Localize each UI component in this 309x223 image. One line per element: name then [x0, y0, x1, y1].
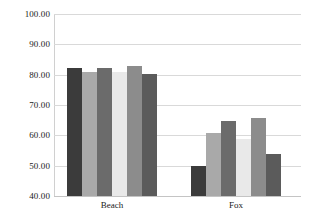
bar [191, 166, 206, 196]
x-axis-category-label: Fox [196, 200, 276, 210]
bar [266, 154, 281, 196]
bar [251, 118, 266, 196]
gridline [54, 196, 301, 197]
x-axis-category-label: Beach [72, 200, 152, 210]
bar-group [67, 14, 157, 196]
bar [142, 74, 157, 196]
y-tick-label: 70.00 [2, 101, 50, 110]
bar [97, 68, 112, 196]
bar [82, 72, 97, 196]
y-tick-label: 50.00 [2, 162, 50, 171]
bar-chart: 100.0090.0080.0070.0060.0050.0040.00 Bea… [0, 0, 309, 223]
bar [206, 133, 221, 196]
y-tick-label: 100.00 [2, 10, 50, 19]
bar [127, 66, 142, 196]
y-tick-label: 80.00 [2, 71, 50, 80]
bar [67, 68, 82, 196]
bar [112, 72, 127, 196]
bar [221, 121, 236, 196]
y-tick-label: 60.00 [2, 131, 50, 140]
y-tick-label: 40.00 [2, 192, 50, 201]
plot-area [54, 14, 301, 196]
y-axis-tick-labels: 100.0090.0080.0070.0060.0050.0040.00 [0, 0, 50, 223]
bar [236, 139, 251, 196]
bar-group [191, 14, 281, 196]
y-tick-label: 90.00 [2, 40, 50, 49]
